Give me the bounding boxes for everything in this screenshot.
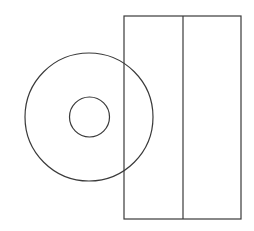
shapes-group <box>25 16 241 219</box>
inner-circle <box>70 97 110 137</box>
diagram-canvas <box>0 0 254 231</box>
outer-circle <box>25 53 153 181</box>
